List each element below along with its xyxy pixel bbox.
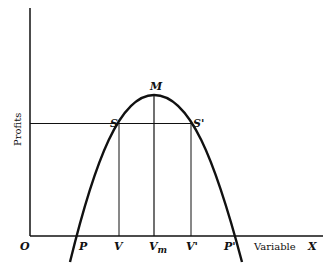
- profit-curve: [70, 95, 242, 262]
- label-M: M: [149, 80, 163, 93]
- label-S-prime: S': [193, 117, 204, 130]
- label-X: X: [307, 240, 317, 253]
- label-S: S: [110, 117, 118, 130]
- y-axis-label: Profits: [12, 113, 23, 146]
- label-Vm: Vm: [149, 240, 167, 255]
- label-V-prime: V': [186, 240, 198, 253]
- profit-diagram: M S S' O P V Vm V' P' Variable X Profits: [0, 0, 333, 273]
- label-origin: O: [20, 240, 30, 253]
- label-P: P: [78, 240, 88, 253]
- x-axis-label: Variable: [253, 241, 296, 252]
- label-P-prime: P': [223, 240, 236, 253]
- label-V: V: [114, 240, 124, 253]
- label-Vm-sub: m: [158, 245, 168, 255]
